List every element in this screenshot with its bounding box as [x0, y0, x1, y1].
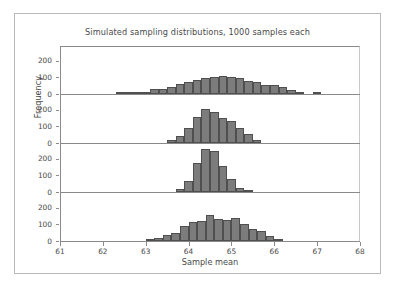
histogram-panel-1: [60, 46, 360, 95]
histogram-panel-4: [60, 193, 360, 242]
histogram-bar: [231, 218, 240, 241]
y-axis-tick-label: 200: [26, 204, 52, 211]
x-axis-tick-label: 68: [348, 247, 372, 256]
x-axis-tick-mark: [103, 242, 104, 246]
histogram-bar: [253, 82, 262, 94]
x-axis-tick-mark: [317, 242, 318, 246]
y-axis-tick-mark: [56, 159, 59, 160]
histogram-panel-3: [60, 144, 360, 193]
y-axis-tick-mark: [56, 241, 59, 242]
histogram-bar: [219, 166, 228, 192]
x-axis-tick-label: 62: [91, 247, 115, 256]
y-axis-tick-label: 200: [26, 106, 52, 113]
y-axis-tick-label: 200: [26, 57, 52, 64]
x-axis-tick-mark: [231, 242, 232, 246]
x-axis-label: Sample mean: [60, 257, 360, 267]
histogram-bar: [210, 112, 219, 143]
histogram-bar: [223, 220, 232, 241]
histogram-bar: [189, 222, 198, 241]
figure-frame: Simulated sampling distributions, 1000 s…: [14, 13, 381, 274]
bars-group: [60, 193, 360, 241]
chart-title: Simulated sampling distributions, 1000 s…: [15, 27, 380, 37]
histogram-bar: [261, 85, 270, 94]
histogram-bar: [244, 134, 253, 143]
y-axis-tick-mark: [56, 224, 59, 225]
x-axis-tick-mark: [189, 242, 190, 246]
histogram-bar: [240, 224, 249, 241]
histogram-bar: [171, 233, 180, 241]
y-axis-tick-mark: [56, 175, 59, 176]
x-axis-tick-label: 66: [262, 247, 286, 256]
histogram-bar: [219, 76, 228, 94]
y-axis-tick-mark: [56, 126, 59, 127]
y-axis-tick-label: 100: [26, 221, 52, 228]
y-axis-tick-label: 200: [26, 155, 52, 162]
x-axis-tick-label: 63: [134, 247, 158, 256]
y-axis-tick-mark: [56, 77, 59, 78]
y-axis-tick-mark: [56, 143, 59, 144]
histogram-bar: [201, 149, 210, 192]
histogram-bar: [210, 151, 219, 192]
histogram-bar: [210, 77, 219, 94]
x-axis-tick-label: 61: [48, 247, 72, 256]
histogram-bar: [193, 80, 202, 94]
histogram-panel-2: [60, 95, 360, 144]
x-axis-tick-mark: [274, 242, 275, 246]
histogram-bar: [184, 82, 193, 94]
histogram-bar: [176, 84, 185, 94]
bars-group: [60, 46, 360, 94]
histogram-bar: [279, 87, 288, 94]
histogram-bar: [214, 219, 223, 241]
histogram-bar: [176, 136, 185, 143]
histogram-bar: [201, 78, 210, 94]
histogram-bar: [206, 215, 215, 241]
histogram-bar: [167, 87, 176, 94]
bars-group: [60, 95, 360, 143]
y-axis-tick-label: 100: [26, 74, 52, 81]
histogram-bar: [236, 78, 245, 94]
histogram-bar: [193, 163, 202, 192]
x-axis-tick-label: 64: [177, 247, 201, 256]
y-axis-tick-mark: [56, 94, 59, 95]
x-axis-tick-label: 67: [305, 247, 329, 256]
y-axis-tick-mark: [56, 61, 59, 62]
x-axis-tick-mark: [360, 242, 361, 246]
histogram-bar: [227, 121, 236, 143]
x-axis-tick-label: 65: [219, 247, 243, 256]
histogram-bar: [193, 117, 202, 143]
histogram-bar: [184, 128, 193, 143]
y-axis-tick-label: 100: [26, 172, 52, 179]
bars-group: [60, 144, 360, 192]
histogram-bar: [180, 226, 189, 241]
y-axis-tick-mark: [56, 110, 59, 111]
y-axis-tick-mark: [56, 208, 59, 209]
histogram-bar: [249, 229, 258, 241]
histogram-bar: [270, 85, 279, 94]
histogram-bar: [227, 179, 236, 192]
histogram-bar: [227, 77, 236, 94]
y-axis-tick-label: 0: [26, 238, 52, 245]
y-axis-tick-label: 0: [26, 140, 52, 147]
y-axis-tick-label: 0: [26, 189, 52, 196]
histogram-bar: [219, 118, 228, 143]
y-axis-tick-label: 100: [26, 123, 52, 130]
histogram-bar: [184, 181, 193, 192]
x-axis-tick-mark: [146, 242, 147, 246]
histogram-bar: [197, 221, 206, 241]
histogram-bar: [244, 81, 253, 94]
x-axis-tick-mark: [60, 242, 61, 246]
y-axis-tick-label: 0: [26, 91, 52, 98]
histogram-bar: [236, 128, 245, 143]
y-axis-tick-mark: [56, 192, 59, 193]
histogram-bar: [257, 231, 266, 241]
histogram-bar: [201, 109, 210, 143]
